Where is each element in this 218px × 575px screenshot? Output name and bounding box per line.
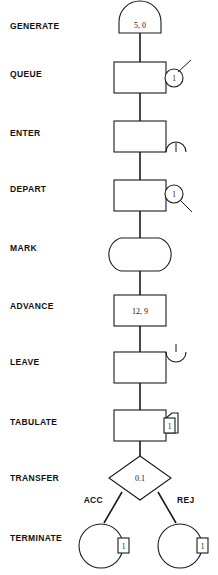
symbol-transfer-value: 0.1 [135, 474, 145, 483]
symbol-advance: 12, 9 [114, 295, 166, 326]
symbol-queue: 1 [114, 60, 191, 93]
diagram-symbols-canvas: 5, 0 1 1 [0, 0, 218, 575]
symbol-terminate-rej: 1 [158, 524, 208, 568]
gpss-block-diagram: GENERATE QUEUE ENTER DEPART MARK ADVANCE… [0, 0, 218, 575]
terminate-rej-circle [158, 524, 202, 568]
symbol-advance-value: 12, 9 [132, 307, 148, 316]
symbol-generate-value: 5, 0 [134, 21, 146, 30]
symbol-terminate-acc: 1 [79, 524, 129, 568]
terminate-acc-tag-value: 1 [122, 542, 126, 551]
symbol-mark [109, 238, 171, 271]
connector-transfer-rej [158, 492, 176, 523]
symbol-depart: 1 [114, 180, 192, 212]
queue-counter-value: 1 [172, 74, 176, 83]
terminate-rej-tag-value: 1 [201, 542, 205, 551]
symbol-generate: 5, 0 [119, 1, 161, 33]
leave-storage-dome [166, 352, 186, 362]
depart-counter-value: 1 [172, 190, 176, 199]
depart-counter-leader-line [180, 200, 192, 212]
tabulate-tag-value: 1 [168, 422, 172, 431]
branch-label-acc: ACC [84, 495, 103, 505]
terminate-acc-circle [79, 524, 123, 568]
queue-counter-leader-line [178, 60, 191, 72]
symbol-leave [114, 344, 186, 383]
symbol-transfer: 0.1 [109, 456, 171, 500]
symbol-enter [114, 121, 186, 152]
branch-label-rej: REJ [177, 495, 194, 505]
connector-transfer-acc [104, 492, 122, 523]
symbol-tabulate: 1 [114, 410, 178, 441]
